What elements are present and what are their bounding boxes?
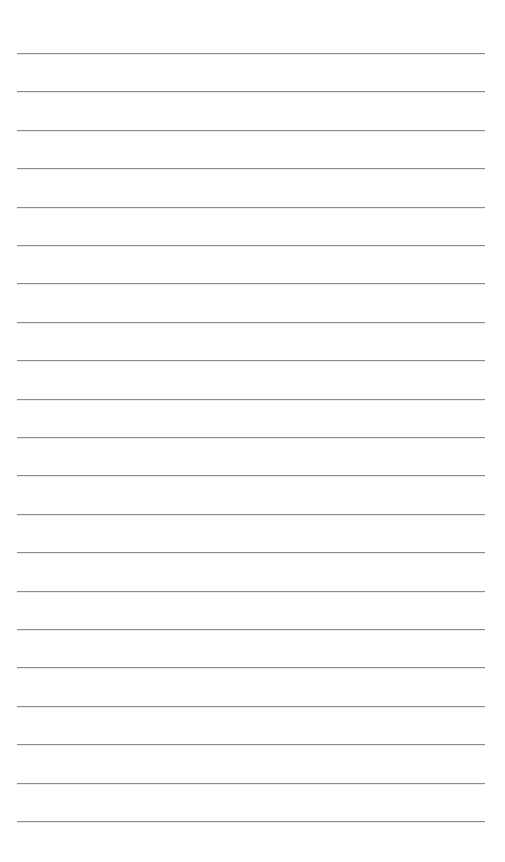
ruled-line: [17, 130, 485, 131]
ruled-line: [17, 360, 485, 361]
ruled-line: [17, 53, 485, 54]
ruled-line: [17, 629, 485, 630]
ruled-line: [17, 245, 485, 246]
ruled-line: [17, 168, 485, 169]
ruled-line: [17, 821, 485, 822]
ruled-line: [17, 744, 485, 745]
ruled-line: [17, 591, 485, 592]
ruled-line: [17, 91, 485, 92]
ruled-line: [17, 667, 485, 668]
ruled-line: [17, 706, 485, 707]
ruled-line: [17, 552, 485, 553]
ruled-line: [17, 322, 485, 323]
ruled-line: [17, 283, 485, 284]
lined-paper-page: [0, 0, 505, 862]
ruled-line: [17, 399, 485, 400]
ruled-line: [17, 783, 485, 784]
ruled-line: [17, 437, 485, 438]
ruled-line: [17, 514, 485, 515]
ruled-line: [17, 475, 485, 476]
ruled-line: [17, 207, 485, 208]
